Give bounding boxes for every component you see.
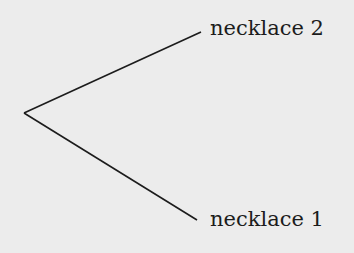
branch-label-necklace-1: necklace 1 [210, 209, 324, 230]
branch-label-necklace-2: necklace 2 [210, 18, 324, 39]
branch-line-bottom [24, 113, 197, 220]
branch-line-top [24, 32, 201, 113]
